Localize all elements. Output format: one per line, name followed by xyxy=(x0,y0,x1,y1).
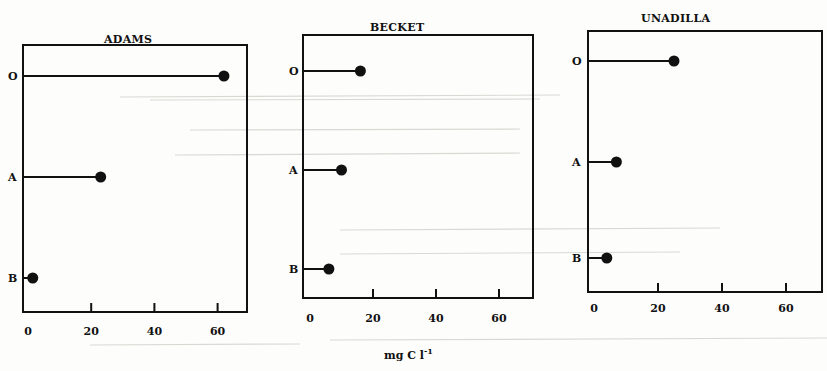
x-tick-label: 40 xyxy=(714,302,730,315)
x-axis-label: mg C l-1 xyxy=(384,346,433,362)
x-axis-label-base: mg C l xyxy=(384,349,424,362)
chart-panel-unadilla: 0204060OAB xyxy=(0,0,827,371)
plot-frame xyxy=(588,31,822,292)
x-tick-label: 20 xyxy=(650,302,666,315)
x-axis-label-exponent: -1 xyxy=(424,346,433,356)
data-point xyxy=(669,56,680,67)
row-label-b: B xyxy=(572,252,581,265)
data-point xyxy=(601,253,612,264)
data-point xyxy=(611,157,622,168)
row-label-a: A xyxy=(571,156,581,169)
x-tick-label: 60 xyxy=(778,302,794,315)
row-label-o: O xyxy=(572,55,582,68)
x-tick-label: 0 xyxy=(590,302,598,315)
